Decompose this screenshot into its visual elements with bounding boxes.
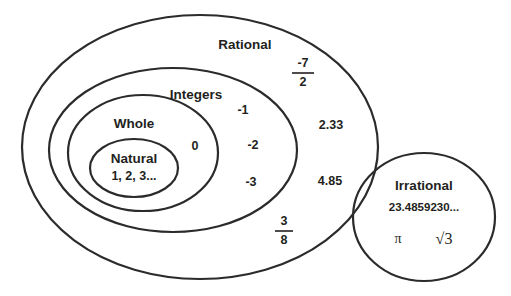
irrational-set-label: Irrational bbox=[395, 178, 453, 193]
fraction-denominator: 2 bbox=[300, 75, 307, 89]
natural-set-outline bbox=[90, 139, 178, 197]
fraction-numerator: -7 bbox=[297, 56, 308, 70]
number-sets-diagram: Rational Integers Whole Natural Irration… bbox=[0, 0, 511, 296]
fraction-numerator: 3 bbox=[281, 214, 288, 228]
sqrt-three-symbol: √3 bbox=[436, 230, 453, 247]
whole-member-zero: 0 bbox=[192, 139, 199, 153]
fraction-denominator: 8 bbox=[281, 233, 288, 247]
integers-set-label: Integers bbox=[170, 87, 223, 102]
fraction-three-eighths: 3 8 bbox=[275, 214, 293, 247]
integers-member-negative-one: -1 bbox=[237, 103, 248, 117]
integers-member-negative-three: -3 bbox=[245, 175, 256, 189]
irrational-member-decimal: 23.4859230... bbox=[389, 201, 459, 213]
natural-members-value: 1, 2, 3... bbox=[111, 169, 156, 183]
rational-member-4-85: 4.85 bbox=[318, 174, 342, 188]
integers-member-negative-two: -2 bbox=[247, 138, 258, 152]
rational-set-outline bbox=[22, 15, 378, 279]
number-sets-canvas: Rational Integers Whole Natural Irration… bbox=[0, 0, 511, 296]
irrational-set-outline bbox=[353, 153, 495, 281]
rational-member-2-33: 2.33 bbox=[319, 118, 343, 132]
pi-symbol: π bbox=[394, 231, 401, 246]
rational-set-label: Rational bbox=[218, 37, 271, 52]
whole-set-label: Whole bbox=[114, 116, 155, 131]
natural-set-label: Natural bbox=[111, 151, 158, 166]
fraction-negative-seven-halves: -7 2 bbox=[292, 56, 314, 89]
